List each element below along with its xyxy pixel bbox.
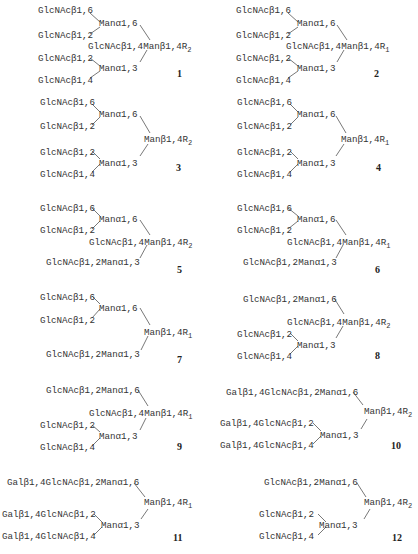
- residue-label: GlcNAcβ1,4: [237, 170, 292, 179]
- residue-label: GlcNAcβ1,6: [40, 204, 95, 213]
- residue-label: GlcNAcβ1,6: [38, 6, 93, 15]
- residue-label: GlcNAcβ1,4Manβ1,4R2: [89, 238, 192, 250]
- residue-label: Galβ1,4GlcNAcβ1,2Manα1,6: [7, 478, 139, 487]
- residue-label: GlcNAcβ1,4Manβ1,4R2: [88, 42, 191, 54]
- residue-label: GlcNAcβ1,4: [237, 352, 292, 361]
- compound-number: 6: [375, 264, 380, 275]
- residue-label: GlcNAcβ1,6: [40, 293, 95, 302]
- residue-label: Galβ1,4GlcNAcβ1,4: [220, 441, 314, 450]
- residue-label: GlcNAcβ1,2: [237, 330, 292, 339]
- compound-number: 10: [391, 440, 401, 451]
- residue-label: GlcNAcβ1,6: [236, 6, 291, 15]
- residue-label: GlcNAcβ1,6: [40, 98, 95, 107]
- compound-number: 9: [177, 441, 182, 452]
- residue-label: Manα1,6: [297, 19, 336, 28]
- residue-label: Manβ1,4R2: [364, 498, 412, 510]
- residue-label: Manα1,3: [99, 432, 138, 441]
- residue-label: GlcNAcβ1,4: [236, 76, 291, 85]
- residue-label: GlcNAcβ1,2: [38, 54, 93, 63]
- residue-label: Galβ1,4GlcNAcβ1,2: [2, 510, 96, 519]
- residue-label: GlcNAcβ1,4Manβ1,4R1: [287, 238, 390, 250]
- residue-label: GlcNAcβ1,2: [237, 226, 292, 235]
- residue-label: GlcNAcβ1,2: [237, 122, 292, 131]
- residue-label: Manα1,6: [297, 215, 336, 224]
- residue-label: GlcNAcβ1,4Manβ1,4R1: [286, 42, 389, 54]
- residue-label: GlcNAcβ1,4: [38, 76, 93, 85]
- residue-label: GlcNAcβ1,4: [40, 170, 95, 179]
- residue-label: Manβ1,4R1: [144, 328, 192, 340]
- residue-label: GlcNAcβ1,2: [40, 421, 95, 430]
- residue-label: GlcNAcβ1,2Manα1,6: [46, 386, 140, 395]
- residue-label: GlcNAcβ1,2Manα1,3: [243, 258, 337, 267]
- residue-label: GlcNAcβ1,6: [237, 98, 292, 107]
- compound-number: 5: [177, 264, 182, 275]
- residue-label: Manα1,6: [297, 110, 336, 119]
- residue-label: GlcNAcβ1,2: [259, 510, 314, 519]
- residue-label: Galβ1,4GlcNAcβ1,4: [2, 532, 96, 541]
- residue-label: GlcNAcβ1,2Manα1,6: [264, 478, 358, 487]
- compound-number: 1: [177, 68, 182, 79]
- residue-label: Manα1,3: [319, 521, 358, 530]
- residue-label: Manα1,3: [99, 159, 138, 168]
- residue-label: GlcNAcβ1,4: [259, 532, 314, 541]
- residue-label: Manβ1,4R2: [364, 407, 412, 419]
- residue-label: GlcNAcβ1,4: [40, 443, 95, 452]
- compound-number: 2: [374, 68, 379, 79]
- residue-label: Manβ1,4R1: [144, 498, 192, 510]
- residue-label: GlcNAcβ1,4Manβ1,4R1: [89, 409, 192, 421]
- compound-number: 12: [392, 532, 402, 543]
- residue-label: Galβ1,4GlcNAcβ1,2: [220, 419, 314, 428]
- residue-label: Manα1,6: [99, 19, 138, 28]
- residue-label: GlcNAcβ1,2Manα1,3: [46, 258, 140, 267]
- residue-label: GlcNAcβ1,2: [237, 148, 292, 157]
- residue-label: GlcNAcβ1,4Manβ1,4R2: [287, 318, 390, 330]
- residue-label: Manα1,3: [297, 64, 336, 73]
- residue-label: Manβ1,4R2: [144, 135, 192, 147]
- residue-label: GlcNAcβ1,6: [237, 204, 292, 213]
- compound-number: 7: [177, 354, 182, 365]
- residue-label: Manβ1,4R1: [341, 135, 389, 147]
- residue-label: GlcNAcβ1,2: [40, 148, 95, 157]
- residue-label: GlcNAcβ1,2: [236, 31, 291, 40]
- residue-label: Manα1,3: [99, 64, 138, 73]
- compound-number: 8: [375, 350, 380, 361]
- residue-label: GlcNAcβ1,2: [38, 31, 93, 40]
- residue-label: Manα1,3: [297, 341, 336, 350]
- residue-label: Manα1,6: [99, 215, 138, 224]
- residue-label: GlcNAcβ1,2Manα1,3: [46, 350, 140, 359]
- residue-label: GlcNAcβ1,2: [40, 316, 95, 325]
- residue-label: Manα1,6: [99, 304, 138, 313]
- compound-number: 3: [176, 162, 181, 173]
- residue-label: Manα1,6: [99, 110, 138, 119]
- figure-caption-clipped: [8, 548, 418, 554]
- compound-number: 11: [173, 532, 182, 543]
- residue-label: GlcNAcβ1,2: [40, 122, 95, 131]
- residue-label: GlcNAcβ1,2Manα1,6: [243, 295, 337, 304]
- residue-label: Galβ1,4GlcNAcβ1,2Manα1,6: [226, 388, 358, 397]
- residue-label: GlcNAcβ1,2: [236, 54, 291, 63]
- residue-label: Manα1,3: [101, 521, 140, 530]
- compound-number: 4: [376, 162, 381, 173]
- residue-label: Manα1,3: [297, 159, 336, 168]
- residue-label: Manα1,3: [320, 431, 359, 440]
- residue-label: GlcNAcβ1,2: [40, 226, 95, 235]
